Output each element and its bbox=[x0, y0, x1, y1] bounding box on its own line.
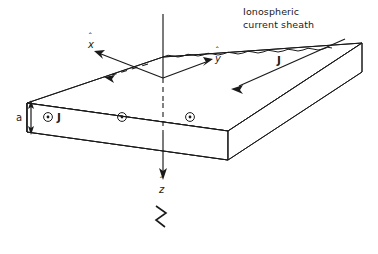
z-axis-label: z bbox=[158, 184, 165, 195]
sheath-label-line1: Ionospheric bbox=[243, 6, 299, 17]
break-mark-squiggle bbox=[156, 206, 166, 227]
x-axis-label: x bbox=[87, 39, 94, 50]
front-current-label: J bbox=[56, 111, 61, 123]
out-of-page-icon-dot bbox=[47, 116, 50, 119]
top-current-label: J bbox=[276, 54, 281, 66]
sheath-label-line2: current sheath bbox=[243, 19, 314, 30]
slab-diagram: Ionospheric current sheath ˆ x ˆ y ˆ z J… bbox=[0, 0, 378, 254]
y-axis-label: y bbox=[214, 53, 222, 64]
out-of-page-icon-dot bbox=[189, 116, 192, 119]
figure-root: Ionospheric current sheath ˆ x ˆ y ˆ z J… bbox=[0, 0, 378, 254]
out-of-page-icon-dot bbox=[121, 116, 124, 119]
thickness-label: a bbox=[16, 112, 22, 123]
